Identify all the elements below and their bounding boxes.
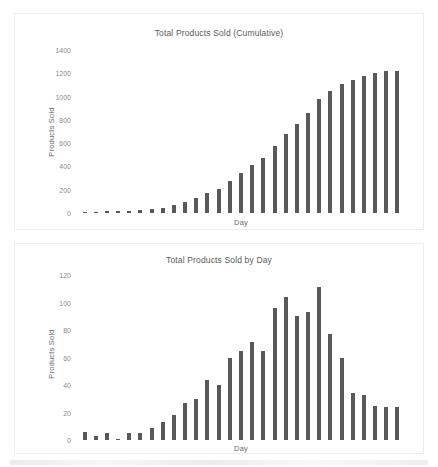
- bar-slot: [224, 50, 235, 213]
- bar: [161, 208, 165, 213]
- bar-slot: [358, 275, 369, 440]
- bar: [239, 351, 243, 440]
- bar: [239, 173, 243, 213]
- chart-title-daily: Total Products Sold by Day: [15, 255, 423, 265]
- charts-page: Total Products Sold (Cumulative) Product…: [0, 0, 438, 467]
- bar: [250, 342, 254, 440]
- bar: [395, 407, 399, 440]
- bar-slot: [180, 275, 191, 440]
- bar: [373, 406, 377, 440]
- y-axis-tick-label: 60: [63, 354, 71, 361]
- bar: [250, 165, 254, 213]
- bar: [284, 297, 288, 440]
- bar-slot: [247, 50, 258, 213]
- bar: [340, 358, 344, 441]
- y-axis-tick-label: 1000: [55, 93, 71, 100]
- bar: [172, 205, 176, 213]
- plot-area-daily: 120100806040200: [76, 275, 406, 440]
- bar: [217, 385, 221, 440]
- bar-series-cumulative: [76, 50, 406, 213]
- bar: [328, 91, 332, 213]
- bar: [83, 212, 87, 213]
- bar-slot: [213, 50, 224, 213]
- bar: [150, 209, 154, 213]
- bar-slot: [302, 275, 313, 440]
- bar-slot: [347, 50, 358, 213]
- y-axis-tick-label: 800: [59, 116, 71, 123]
- y-axis-tick-label: 600: [59, 140, 71, 147]
- y-axis-tick-label: 40: [63, 382, 71, 389]
- bar: [395, 71, 399, 214]
- bar-slot: [101, 50, 112, 213]
- bar-slot: [358, 50, 369, 213]
- bar: [228, 358, 232, 441]
- bar-slot: [347, 275, 358, 440]
- chart-panel-daily: Total Products Sold by Day Products Sold…: [14, 243, 424, 454]
- bar-slot: [381, 50, 392, 213]
- bar: [105, 433, 109, 440]
- y-axis-tick-label: 120: [59, 272, 71, 279]
- bar-slot: [314, 50, 325, 213]
- bar: [273, 308, 277, 440]
- bar: [161, 422, 165, 440]
- y-axis-tick-label: 1400: [55, 47, 71, 54]
- bar-slot: [168, 50, 179, 213]
- bar-slot: [325, 275, 336, 440]
- bar-slot: [79, 50, 90, 213]
- bar-slot: [336, 275, 347, 440]
- bar-slot: [146, 275, 157, 440]
- bar: [351, 80, 355, 213]
- x-axis-title-daily: Day: [76, 444, 406, 453]
- bar: [261, 158, 265, 213]
- bar-slot: [202, 275, 213, 440]
- bar-slot: [113, 275, 124, 440]
- bar-slot: [213, 275, 224, 440]
- bar: [306, 312, 310, 440]
- bar-slot: [168, 275, 179, 440]
- bar: [194, 399, 198, 440]
- bar-slot: [101, 275, 112, 440]
- bar-slot: [280, 50, 291, 213]
- bar: [273, 146, 277, 213]
- bar-series-daily: [76, 275, 406, 440]
- plot-area-cumulative: 1400120010008006004002000: [76, 50, 406, 213]
- bar: [228, 181, 232, 213]
- y-axis-tick-label: 80: [63, 327, 71, 334]
- page-bottom-artifact: [10, 460, 428, 465]
- bar-slot: [269, 50, 280, 213]
- y-axis-tick-label: 0: [67, 437, 71, 444]
- bar: [261, 351, 265, 440]
- bar: [351, 393, 355, 440]
- bar-slot: [258, 275, 269, 440]
- bar-slot: [325, 50, 336, 213]
- bar-slot: [124, 50, 135, 213]
- bar-slot: [381, 275, 392, 440]
- bar: [295, 316, 299, 440]
- bar: [150, 428, 154, 440]
- bar: [205, 380, 209, 441]
- bar: [127, 211, 131, 213]
- bar-slot: [392, 275, 403, 440]
- bar-slot: [280, 275, 291, 440]
- y-axis-tick-label: 1200: [55, 70, 71, 77]
- bar: [116, 439, 120, 440]
- bar: [172, 415, 176, 440]
- bar: [373, 73, 377, 213]
- y-axis-title-cumulative: Products Sold: [47, 107, 56, 156]
- bar: [138, 210, 142, 213]
- y-axis-tick-label: 20: [63, 409, 71, 416]
- y-axis-tick-label: 400: [59, 163, 71, 170]
- bar: [116, 211, 120, 213]
- bar: [362, 395, 366, 440]
- bar-slot: [135, 50, 146, 213]
- bar-slot: [113, 50, 124, 213]
- bar-slot: [135, 275, 146, 440]
- bar-slot: [124, 275, 135, 440]
- bar: [340, 84, 344, 213]
- bar-slot: [314, 275, 325, 440]
- bar: [284, 134, 288, 213]
- y-axis-title-daily: Products Sold: [47, 329, 56, 378]
- bar-slot: [191, 50, 202, 213]
- bar-slot: [291, 275, 302, 440]
- bar-slot: [157, 275, 168, 440]
